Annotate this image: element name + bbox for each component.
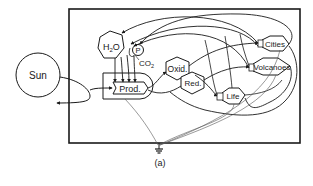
prod-label: Prod. — [119, 84, 141, 94]
oxid-label: Oxid. — [168, 64, 188, 74]
figure-caption: (a) — [155, 158, 166, 168]
co2-label: CO2 — [139, 59, 154, 69]
sun-label: Sun — [29, 70, 47, 81]
red-label: Red. — [185, 79, 202, 88]
sun-source: Sun — [16, 53, 60, 97]
life-node: Life — [217, 88, 245, 104]
h2o-storage: H2O — [98, 31, 124, 58]
red-storage: Red. — [181, 72, 204, 94]
cities-label: Cities — [265, 40, 285, 49]
energy-systems-diagram: Sun Prod. H2O P CO2 Oxid. Red. — [0, 0, 313, 186]
p-label: P — [135, 46, 140, 55]
cities-node: Cities — [258, 36, 289, 51]
prod-node: Prod. — [113, 82, 148, 94]
life-label: Life — [227, 92, 240, 101]
volcanoes-node: Volcanoes — [249, 58, 290, 75]
